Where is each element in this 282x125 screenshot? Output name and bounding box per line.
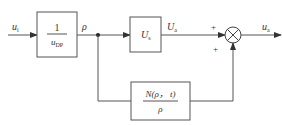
output-label: ua: [262, 21, 270, 33]
nonlinear-denominator: ρ: [157, 104, 163, 114]
rho-label: ρ: [81, 21, 87, 32]
plus-sign-top: +: [211, 22, 216, 32]
ua-label: Ua: [167, 21, 177, 33]
block-diagram: ui 1 uDP ρ Us Ua + + ua N(ρ， t) ρ: [0, 0, 282, 125]
nonlinear-numerator: N(ρ， t): [144, 89, 175, 99]
input-label: ui: [12, 21, 19, 33]
plus-sign-bottom: +: [213, 44, 218, 54]
branch-line-up: [190, 43, 233, 101]
gain-numerator: 1: [55, 22, 60, 33]
summing-junction: [225, 27, 241, 43]
branch-line-down: [98, 35, 131, 101]
